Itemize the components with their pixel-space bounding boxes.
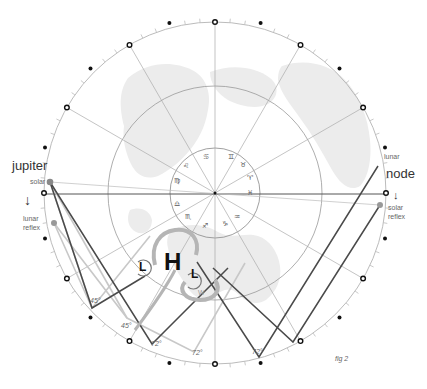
- polar-diagram: [0, 0, 427, 389]
- high-pressure-label: H: [164, 250, 181, 274]
- sign-sagittarius: ♐: [202, 223, 208, 230]
- angle-label-72-right: 72°: [252, 348, 263, 355]
- angle-label-72-left: 72°: [151, 340, 162, 347]
- node-solar-label: solar: [388, 204, 403, 213]
- jupiter-reflex-label: reflex: [23, 224, 40, 233]
- angle-label-45-lower: 45°: [121, 322, 132, 329]
- low-pressure-label-2: L: [191, 268, 198, 280]
- sign-aquarius: ♒: [234, 214, 240, 221]
- landmass: [121, 62, 371, 302]
- jupiter-label: jupiter: [12, 159, 47, 172]
- sign-cancer: ♋: [203, 154, 209, 161]
- sign-virgo: ♍: [174, 178, 180, 185]
- sign-capricorn: ♑: [222, 221, 228, 228]
- sign-scorpio: ♏: [185, 214, 191, 221]
- jupiter-lunar-reflex-marker: [51, 220, 57, 226]
- angle-label-72-middle: 72°: [192, 349, 203, 356]
- node-solar-reflex-marker: [377, 202, 383, 208]
- node-reflex-label: reflex: [388, 213, 405, 222]
- center-point: [214, 192, 217, 195]
- sign-pisces: ♓: [247, 190, 253, 197]
- figure-caption: fig 2: [335, 355, 348, 362]
- node-label: node: [386, 167, 415, 180]
- jupiter-solar-marker: [47, 179, 54, 186]
- angle-label-45-upper: 45°: [90, 297, 101, 304]
- sign-libra: ♎: [174, 201, 180, 208]
- node-arrow-down-icon: ↓: [393, 190, 399, 201]
- sign-leo: ♌: [183, 163, 189, 170]
- wind-label: W: [198, 289, 205, 296]
- sign-taurus: ♉: [240, 162, 246, 169]
- jupiter-lunar-label: lunar: [23, 215, 39, 224]
- sign-aries: ♈: [247, 175, 253, 182]
- arrow-down-icon: ↓: [24, 193, 31, 207]
- node-lunar-label: lunar: [384, 153, 400, 162]
- low-pressure-label-1: L: [139, 261, 146, 273]
- jupiter-solar-label: solar: [30, 178, 45, 187]
- sign-gemini: ♊: [228, 154, 234, 161]
